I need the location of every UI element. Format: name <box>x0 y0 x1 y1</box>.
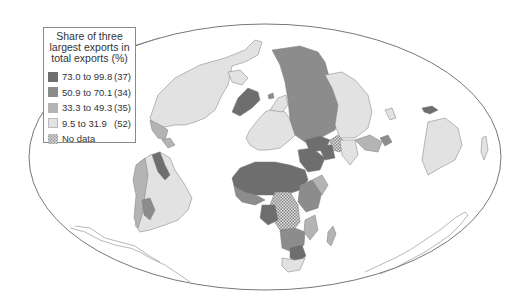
legend: Share of three largest exports in total … <box>43 27 136 143</box>
legend-swatch <box>48 72 58 82</box>
legend-swatch <box>48 118 58 128</box>
legend-count: (52) <box>114 118 131 129</box>
legend-range: 9.5 to 31.9 <box>62 118 114 129</box>
legend-item: 50.9 to 70.1 (34) <box>48 85 131 101</box>
legend-count: (37) <box>114 71 131 82</box>
legend-range: No data <box>62 133 131 144</box>
legend-title: Share of three largest exports in total … <box>48 31 131 64</box>
region-africa-north <box>232 162 308 195</box>
legend-swatch-no-data <box>48 134 58 144</box>
legend-item: 33.3 to 49.3 (35) <box>48 100 131 116</box>
legend-range: 50.9 to 70.1 <box>62 87 114 98</box>
legend-swatch <box>48 87 58 97</box>
legend-count: (35) <box>114 102 131 113</box>
legend-range: 33.3 to 49.3 <box>62 102 114 113</box>
legend-swatch <box>48 103 58 113</box>
legend-title-line: total exports (%) <box>48 53 131 64</box>
legend-item: No data <box>48 131 131 147</box>
legend-range: 73.0 to 99.8 <box>62 71 114 82</box>
legend-count: (34) <box>114 87 131 98</box>
legend-item: 9.5 to 31.9 (52) <box>48 116 131 132</box>
legend-item: 73.0 to 99.8 (37) <box>48 69 131 85</box>
